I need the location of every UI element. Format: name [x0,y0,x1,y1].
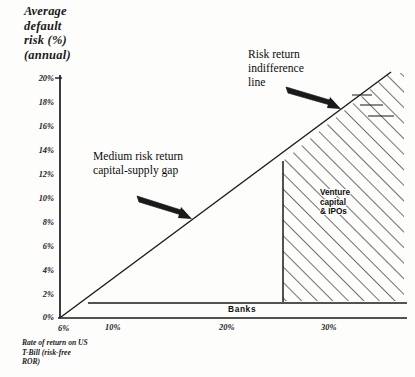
y-tick-label-4: 4% [20,266,54,275]
risk-return-indifference-arrow [286,87,341,109]
annotation-capital-supply-gap: Medium risk return capital-supply gap [93,150,183,178]
x-axis-caption-line-3: ROR) [22,357,172,367]
y-tick-label-16: 16% [20,122,54,131]
annotation-indifference-line-3: line [248,76,304,90]
annotation-venture-capital-ipos: Venture capital & IPOs [320,188,384,217]
x-tick-label-20: 20% [219,323,234,332]
venture-capital-hatch-region [280,60,410,310]
y-tick-label-10: 10% [20,194,54,203]
y-tick-label-2: 2% [20,290,54,299]
x-axis-caption-line-1: Rate of return on US [22,338,172,348]
annotation-risk-return-indifference-line: Risk return indifference line [248,48,304,90]
annotation-gap-line-1: Medium risk return [93,150,183,164]
y-tick-label-20: 20% [20,74,54,83]
annotation-gap-line-2: capital-supply gap [93,164,183,178]
annotation-venture-line-2: capital [320,198,384,208]
x-axis-caption-line-2: T-Bill (risk-free [22,348,172,358]
x-tick-label-10: 10% [105,323,120,332]
annotation-indifference-line-2: indifference [248,62,304,76]
x-tick-label-6: 6% [58,324,69,333]
capital-supply-gap-arrow [137,196,192,219]
chart-canvas: Average default risk (%) (annual) [0,0,415,377]
x-axis-caption: Rate of return on US T-Bill (risk-free R… [22,338,172,367]
y-tick-label-6: 6% [20,242,54,251]
x-tick-label-30: 30% [321,323,336,332]
y-tick-label-18: 18% [20,98,54,107]
annotation-banks: Banks [228,304,256,314]
y-tick-label-0: 0% [20,313,54,322]
y-tick-label-14: 14% [20,146,54,155]
annotation-venture-line-3: & IPOs [320,207,384,217]
annotation-venture-line-1: Venture [320,188,384,198]
annotation-indifference-line-1: Risk return [248,48,304,62]
y-tick-label-8: 8% [20,218,54,227]
y-tick-label-12: 12% [20,170,54,179]
